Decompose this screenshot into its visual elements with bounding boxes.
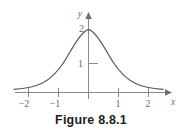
y-tick-label-1: 1 [78,58,83,69]
x-tick-label-pos2: 2 [146,98,151,109]
figure-caption: Figure 8.8.1 [0,113,182,127]
y-axis-label: y [77,9,83,19]
coordinate-plot: −2 −1 1 2 1 2 y x [0,0,182,112]
y-tick-label-2: 2 [79,23,84,34]
figure-container: −2 −1 1 2 1 2 y x Figure 8.8.1 [0,0,182,137]
x-tick-label-neg1: −1 [50,98,61,109]
x-axis-arrowhead [165,89,172,96]
x-tick-label-pos1: 1 [116,98,121,109]
y-axis-arrowhead [85,12,92,19]
plot-area: −2 −1 1 2 1 2 y x [0,0,182,112]
x-tick-label-neg2: −2 [19,98,30,109]
x-axis-label: x [170,97,176,107]
